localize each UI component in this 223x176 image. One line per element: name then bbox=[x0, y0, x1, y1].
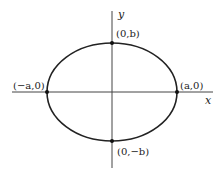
point-top bbox=[110, 41, 114, 45]
point-bottom bbox=[110, 139, 114, 143]
point-left bbox=[45, 90, 49, 94]
label-right: (a,0) bbox=[180, 80, 203, 91]
point-right bbox=[175, 90, 179, 94]
label-top: (0,b) bbox=[116, 28, 140, 39]
label-left: (−a,0) bbox=[13, 80, 45, 91]
x-axis-label: x bbox=[205, 94, 212, 107]
ellipse-diagram: y x (0,b) (0,−b) (−a,0) (a,0) bbox=[0, 0, 223, 176]
label-bottom: (0,−b) bbox=[117, 146, 149, 157]
y-axis-label: y bbox=[117, 8, 125, 21]
